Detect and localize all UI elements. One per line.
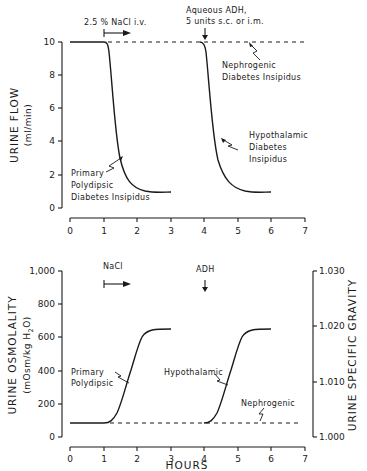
- bottom-chart: 1,000 800 600 400 200 0 URINE OSMOLALITY…: [6, 262, 358, 471]
- hypo-top-label-2: Diabetes: [249, 143, 287, 152]
- nephro-top-label-1: Nephrogenic: [222, 61, 276, 70]
- nephro-osm-pointer-icon: [259, 408, 264, 421]
- nephro-top-label-2: Diabetes Insipidus: [222, 73, 301, 82]
- hypo-top-label-3: Insipidus: [249, 155, 287, 164]
- top-xtick-0: 0: [67, 226, 73, 236]
- figure: 10 8 6 4 2 0 URINE FLOW (ml/min) 0 1 2 3…: [0, 0, 367, 471]
- top-ytick-8: 8: [49, 70, 55, 80]
- adh-label: ADH: [196, 265, 215, 274]
- bottom-ytick-0: 0: [49, 432, 55, 442]
- top-y-axis-units: (ml/min): [23, 104, 33, 146]
- primary-pointer-icon: [106, 158, 121, 172]
- primary-top-label-1: Primary: [71, 169, 104, 178]
- top-y-axis-title: URINE FLOW: [8, 87, 20, 163]
- top-xtick-7: 7: [302, 226, 308, 236]
- adh-arrow-down-icon: [202, 28, 208, 40]
- bottom-y2tick-1000: 1.000: [319, 432, 345, 442]
- bottom-x-ticks: [70, 447, 305, 451]
- top-xtick-1: 1: [101, 226, 107, 236]
- top-x-ticks: [70, 218, 305, 222]
- top-y-ticks: [58, 42, 62, 208]
- bottom-xtick-0: 0: [67, 454, 73, 464]
- bottom-ytick-600: 600: [38, 332, 55, 342]
- top-xtick-4: 4: [201, 226, 207, 236]
- top-xtick-5: 5: [235, 226, 241, 236]
- top-ytick-10: 10: [44, 37, 56, 47]
- bottom-ytick-200: 200: [38, 399, 55, 409]
- bottom-y2tick-1010: 1.010: [319, 377, 345, 387]
- bottom-y-axis-units: (mOsm/kg H2O): [22, 316, 35, 394]
- primary-top-label-3: Diabetes Insipidus: [71, 193, 150, 202]
- bottom-ytick-1000: 1,000: [29, 266, 55, 276]
- adh-dose-label: 5 units s.c. or i.m.: [186, 17, 264, 26]
- bottom-ytick-800: 800: [38, 299, 55, 309]
- top-chart: 10 8 6 4 2 0 URINE FLOW (ml/min) 0 1 2 3…: [8, 6, 308, 236]
- bottom-y2tick-1030: 1.030: [319, 266, 345, 276]
- nacl-arrow-right-icon: [104, 29, 131, 37]
- top-ytick-6: 6: [49, 103, 55, 113]
- bottom-xtick-1: 1: [101, 454, 107, 464]
- bottom-xtick-6: 6: [268, 454, 274, 464]
- hypo-top-label-1: Hypothalamic: [249, 131, 308, 140]
- hypo-bottom-label: Hypothalamic: [164, 368, 223, 377]
- top-xtick-3: 3: [168, 226, 174, 236]
- bottom-y2-ticks: [313, 271, 317, 437]
- bottom-ytick-400: 400: [38, 366, 55, 376]
- top-xtick-6: 6: [268, 226, 274, 236]
- top-xtick-2: 2: [134, 226, 140, 236]
- adh-arrow-down-icon: [202, 280, 208, 292]
- bottom-y-axis-title: URINE OSMOLALITY: [6, 295, 18, 414]
- primary-osm-pointer-icon: [115, 372, 129, 383]
- aqueous-adh-label: Aqueous ADH,: [186, 6, 247, 15]
- primary-bottom-label-2: Polydipsic: [71, 379, 114, 388]
- primary-bottom-label-1: Primary: [71, 368, 104, 377]
- bottom-y-ticks: [58, 271, 62, 437]
- bottom-x-axis-title: HOURS: [166, 459, 209, 471]
- primary-top-label-2: Polydipsic: [71, 181, 114, 190]
- top-ytick-0: 0: [49, 203, 55, 213]
- top-ytick-2: 2: [49, 170, 55, 180]
- nacl-iv-label: 2.5 % NaCl i.v.: [84, 18, 147, 27]
- nephro-bottom-label: Nephrogenic: [241, 399, 295, 408]
- top-ytick-4: 4: [49, 136, 55, 146]
- bottom-xtick-5: 5: [235, 454, 241, 464]
- bottom-y2-axis-title: URINE SPECIFIC GRAVITY: [346, 279, 358, 431]
- bottom-xtick-2: 2: [134, 454, 140, 464]
- bottom-y2tick-1020: 1.020: [319, 321, 345, 331]
- nacl-label: NaCl: [103, 262, 123, 271]
- bottom-xtick-7: 7: [302, 454, 308, 464]
- nacl-arrow-right-icon: [104, 280, 131, 288]
